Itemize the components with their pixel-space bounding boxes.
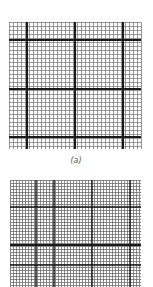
graph-paper-b-icon [0,0,153,287]
grid-panel-b [0,0,153,287]
